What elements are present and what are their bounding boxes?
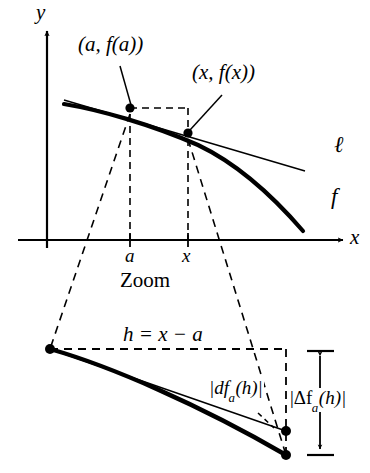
point-marker-x [183, 128, 192, 137]
tick-label-a: a [125, 246, 135, 265]
differential-label-suffix: (h)| [235, 377, 262, 398]
differential-label-prefix: |df [209, 377, 229, 398]
point-marker-a [125, 103, 134, 112]
increment-label-subscript: a [312, 400, 318, 415]
function-label: f [331, 185, 337, 208]
drop-lines [130, 114, 188, 239]
figure-root: y x a x (a, f(a)) (x, f(x)) ℓ f Zoom h =… [0, 0, 370, 473]
differential-label-subscript: a [228, 390, 234, 405]
projection-right [188, 139, 286, 455]
point-a-label: (a, f(a)) [78, 34, 143, 55]
point-x-label: (x, f(x)) [192, 62, 255, 83]
callout-leader-a [120, 66, 131, 105]
zoom-point-tangent-end [281, 426, 291, 436]
differential-leader-line [258, 413, 274, 428]
h-equation-text: h = x − a [123, 322, 203, 346]
zoom-point-curve-end [281, 450, 291, 460]
tick-label-x: x [182, 246, 190, 265]
callout-leader-x [190, 95, 222, 130]
function-curve [64, 104, 303, 231]
increment-label: |Δfa(h)| [289, 388, 347, 412]
increment-label-prefix: |Δf [290, 387, 312, 408]
zoom-h-guides [50, 349, 288, 458]
zoom-caption: Zoom [120, 270, 170, 291]
y-axis-label: y [36, 2, 45, 23]
zoom-point-left [45, 344, 55, 354]
zoom-curve-segment [50, 349, 286, 455]
projection-left [50, 114, 130, 349]
h-equation-label: h = x − a [118, 324, 208, 345]
x-axis-label: x [350, 227, 359, 248]
differential-label: |dfa(h)| [208, 378, 264, 402]
increment-label-suffix: (h)| [319, 387, 346, 408]
tangent-line-label: ℓ [334, 133, 344, 156]
